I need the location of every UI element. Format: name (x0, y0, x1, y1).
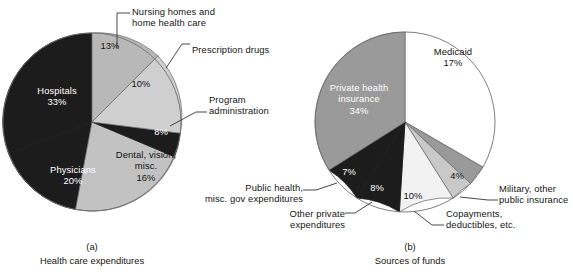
callout-program-line1: Program (209, 94, 269, 105)
label-medicare-name: Medicare (434, 111, 504, 122)
callout-prescription-line1: Prescription drugs (192, 44, 269, 55)
panel-a-letter: (a) (52, 241, 132, 253)
label-private-line2: insurance (316, 93, 402, 104)
panel-b-caption: Sources of funds (340, 255, 480, 267)
panel-a-caption: Health care expenditures (12, 255, 172, 267)
callout-public-health-line2: misc. gov expenditures (180, 193, 303, 204)
label-private-value: 34% (316, 105, 402, 116)
callout-other-private-line2: expenditures (225, 219, 345, 230)
callout-nursing-homes: Nursing homes and home health care (132, 6, 215, 29)
callout-prescription-drugs: Prescription drugs (192, 44, 269, 55)
callout-program-line2: administration (209, 105, 269, 116)
label-hospitals: Hospitals 33% (20, 85, 94, 108)
callout-military-line1: Military, other (499, 183, 568, 194)
label-dental-line1: Dental, vision, (106, 149, 186, 160)
label-hospitals-name: Hospitals (20, 85, 94, 96)
value-other-private-expenditures: 8% (362, 182, 392, 193)
callout-copayments-line1: Copayments, (446, 208, 515, 219)
value-prescription-drugs: 10% (123, 78, 159, 89)
label-physicians: Physicians 20% (36, 164, 110, 187)
value-program-administration: 8% (146, 126, 176, 137)
callout-other-private-line1: Other private (225, 208, 345, 219)
leader-line-copayments (414, 211, 444, 225)
callout-public-health-line1: Public health, (180, 182, 303, 193)
label-physicians-value: 20% (36, 175, 110, 186)
value-public-health-misc-gov: 7% (334, 166, 364, 177)
callout-other-private-expenditures: Other private expenditures (225, 208, 345, 231)
callout-military-other-public-insurance: Military, other public insurance (499, 183, 568, 206)
panel-b-letter: (b) (370, 241, 450, 253)
label-dental-line2: misc. (106, 160, 186, 171)
leader-line-prescription (166, 44, 190, 68)
leader-line-public-health (303, 183, 337, 190)
value-nursing-homes: 13% (92, 40, 128, 51)
label-medicaid-value: 17% (418, 57, 488, 68)
label-private-health-insurance: Private health insurance 34% (316, 82, 402, 116)
label-dental-value: 16% (106, 172, 186, 183)
label-physicians-name: Physicians (36, 164, 110, 175)
callout-program-administration: Program administration (209, 94, 269, 117)
label-hospitals-value: 33% (20, 96, 94, 107)
callout-nursing-line1: Nursing homes and (132, 6, 215, 17)
value-military-other-public-insurance: 4% (443, 170, 471, 181)
callout-public-health-misc-gov: Public health, misc. gov expenditures (180, 182, 303, 205)
value-copayments-deductibles: 10% (396, 190, 430, 201)
label-medicare-value: 20% (434, 122, 504, 133)
leader-line-military (460, 197, 498, 200)
label-medicaid-name: Medicaid (418, 46, 488, 57)
pie-charts-figure (0, 0, 573, 275)
callout-military-line2: public insurance (499, 194, 568, 205)
label-dental-vision-misc: Dental, vision, misc. 16% (106, 149, 186, 183)
callout-copayments-deductibles: Copayments, deductibles, etc. (446, 208, 515, 231)
callout-nursing-line2: home health care (132, 17, 215, 28)
label-private-line1: Private health (316, 82, 402, 93)
label-medicaid: Medicaid 17% (418, 46, 488, 69)
callout-copayments-line2: deductibles, etc. (446, 219, 515, 230)
label-medicare: Medicare 20% (434, 111, 504, 134)
